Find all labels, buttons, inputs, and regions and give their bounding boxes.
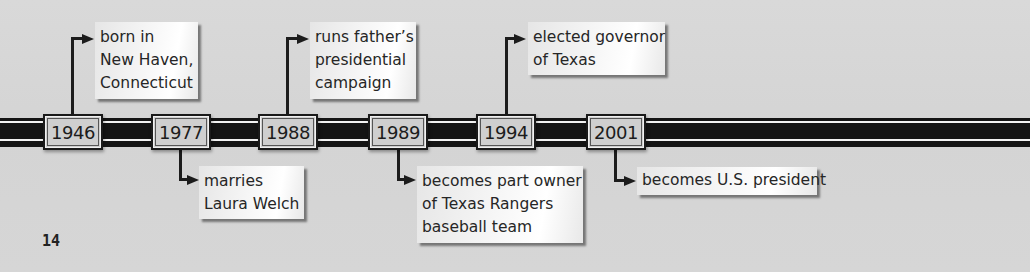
page-number: 14 xyxy=(42,232,60,250)
arrow-right-icon xyxy=(404,175,416,185)
event-callout-1989: becomes part owner of Texas Rangers base… xyxy=(417,166,583,243)
connector-1994-vertical xyxy=(505,37,508,114)
event-text-line: runs father’s xyxy=(315,26,410,49)
event-text-line: campaign xyxy=(315,72,410,95)
event-text-line: marries xyxy=(204,170,298,193)
connector-1989-vertical xyxy=(397,150,400,181)
event-text-line: baseball team xyxy=(422,216,577,239)
year-label: 1989 xyxy=(370,116,426,148)
event-callout-2001: becomes U.S. president xyxy=(637,167,817,195)
event-text-line: presidential xyxy=(315,49,410,72)
event-callout-1988: runs father’s presidential campaign xyxy=(310,22,416,99)
year-label: 1977 xyxy=(153,116,209,148)
year-box-1977: 1977 xyxy=(151,114,211,150)
arrow-right-icon xyxy=(297,34,309,44)
event-text-line: elected governor xyxy=(533,26,659,49)
arrow-right-icon xyxy=(514,34,526,44)
arrow-right-icon xyxy=(624,176,636,186)
event-callout-1946: born in New Haven, Connecticut xyxy=(95,22,198,99)
connector-1946-vertical xyxy=(71,37,74,114)
event-text-line: of Texas xyxy=(533,49,659,72)
event-callout-1994: elected governor of Texas xyxy=(528,22,665,75)
year-box-1988: 1988 xyxy=(258,114,318,150)
arrow-right-icon xyxy=(187,175,199,185)
year-box-1994: 1994 xyxy=(476,114,536,150)
connector-2001-vertical xyxy=(614,150,617,182)
event-text-line: Laura Welch xyxy=(204,193,298,216)
year-label: 1994 xyxy=(478,116,534,148)
event-text-line: Connecticut xyxy=(100,72,192,95)
event-text-line: becomes part owner xyxy=(422,170,577,193)
event-text-line: of Texas Rangers xyxy=(422,193,577,216)
event-callout-1977: marries Laura Welch xyxy=(199,166,304,219)
year-label: 1988 xyxy=(260,116,316,148)
year-box-1946: 1946 xyxy=(43,114,103,150)
event-text-line: born in xyxy=(100,26,192,49)
year-label: 2001 xyxy=(588,116,644,148)
event-text-line: becomes U.S. president xyxy=(642,169,811,192)
year-box-2001: 2001 xyxy=(586,114,646,150)
event-text-line: New Haven, xyxy=(100,49,192,72)
arrow-right-icon xyxy=(82,34,94,44)
year-box-1989: 1989 xyxy=(368,114,428,150)
connector-1988-vertical xyxy=(286,37,289,114)
connector-1977-vertical xyxy=(179,150,182,181)
year-label: 1946 xyxy=(45,116,101,148)
